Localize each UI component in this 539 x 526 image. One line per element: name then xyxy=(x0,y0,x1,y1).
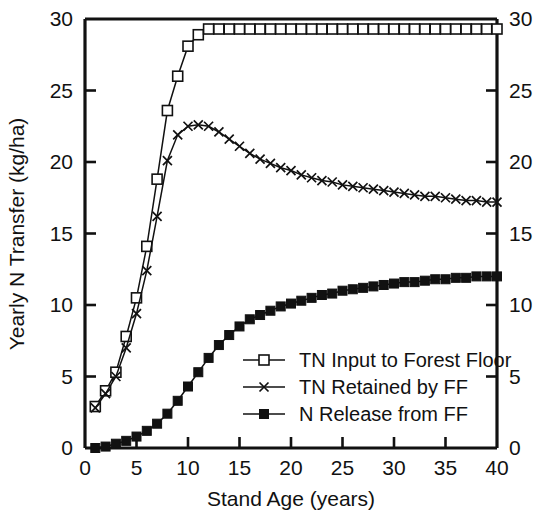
data-point-2-9 xyxy=(184,382,193,391)
data-point-0-28 xyxy=(379,24,389,34)
data-point-2-7 xyxy=(163,409,172,418)
data-point-2-16 xyxy=(256,311,265,320)
legend-marker-filled-square xyxy=(260,410,269,419)
data-point-1-15 xyxy=(245,149,254,158)
data-point-0-6 xyxy=(152,174,162,184)
x-tick-label-15: 15 xyxy=(228,456,251,479)
data-point-2-22 xyxy=(317,290,326,299)
data-point-2-32 xyxy=(420,276,429,285)
data-point-2-26 xyxy=(359,283,368,292)
data-point-0-21 xyxy=(307,24,317,34)
x-tick-label-35: 35 xyxy=(434,456,457,479)
data-point-2-10 xyxy=(194,368,203,377)
data-point-2-20 xyxy=(297,296,306,305)
data-point-2-21 xyxy=(307,293,316,302)
data-point-0-30 xyxy=(399,24,409,34)
data-point-1-13 xyxy=(225,135,234,144)
x-tick-label-20: 20 xyxy=(279,456,302,479)
y-tick-label-right-10: 10 xyxy=(509,293,532,316)
data-point-2-8 xyxy=(173,396,182,405)
data-point-2-0 xyxy=(91,444,100,453)
data-point-2-24 xyxy=(338,286,347,295)
data-point-0-20 xyxy=(296,24,306,34)
legend-label-0: TN Input to Forest Floor xyxy=(299,349,512,371)
data-point-2-39 xyxy=(493,272,502,281)
legend-entry-1: TN Retained by FF xyxy=(243,376,468,398)
data-point-2-35 xyxy=(451,273,460,282)
data-point-0-25 xyxy=(348,24,358,34)
y-tick-label-left-25: 25 xyxy=(50,79,73,102)
data-point-0-8 xyxy=(173,71,183,81)
data-point-0-17 xyxy=(265,24,275,34)
data-point-2-25 xyxy=(348,285,357,294)
data-point-0-12 xyxy=(214,24,224,34)
data-point-0-11 xyxy=(204,24,214,34)
data-point-1-20 xyxy=(297,170,306,179)
x-tick-label-25: 25 xyxy=(331,456,354,479)
data-point-0-31 xyxy=(410,24,420,34)
data-point-2-19 xyxy=(287,299,296,308)
data-point-0-29 xyxy=(389,24,399,34)
data-point-0-27 xyxy=(368,24,378,34)
data-point-1-14 xyxy=(235,142,244,151)
data-point-1-21 xyxy=(307,173,316,182)
chart-figure: 0510152025303540005510101515202025253030… xyxy=(0,0,539,526)
data-point-0-36 xyxy=(461,24,471,34)
data-point-2-1 xyxy=(101,442,110,451)
y-tick-label-left-30: 30 xyxy=(50,7,73,30)
data-point-0-37 xyxy=(471,24,481,34)
y-tick-label-left-5: 5 xyxy=(61,365,73,388)
data-point-0-18 xyxy=(276,24,286,34)
data-point-0-13 xyxy=(224,24,234,34)
y-tick-label-left-15: 15 xyxy=(50,222,73,245)
data-point-0-16 xyxy=(255,24,265,34)
data-point-0-14 xyxy=(235,24,245,34)
data-point-2-33 xyxy=(431,275,440,284)
x-tick-label-40: 40 xyxy=(485,456,508,479)
data-point-1-8 xyxy=(173,130,182,139)
legend-entry-2: N Release from FF xyxy=(243,403,468,425)
data-point-0-35 xyxy=(451,24,461,34)
data-point-0-32 xyxy=(420,24,430,34)
data-point-2-5 xyxy=(142,426,151,435)
data-point-2-14 xyxy=(235,322,244,331)
data-point-0-26 xyxy=(358,24,368,34)
legend-entry-0: TN Input to Forest Floor xyxy=(243,349,512,371)
data-point-0-24 xyxy=(338,24,348,34)
x-axis-title: Stand Age (years) xyxy=(207,487,375,510)
data-point-0-33 xyxy=(430,24,440,34)
data-point-1-16 xyxy=(256,155,265,164)
legend-label-1: TN Retained by FF xyxy=(299,376,468,398)
data-point-0-9 xyxy=(183,41,193,51)
data-point-2-37 xyxy=(472,272,481,281)
data-point-2-15 xyxy=(245,315,254,324)
y-tick-label-right-30: 30 xyxy=(509,7,532,30)
y-tick-label-right-15: 15 xyxy=(509,222,532,245)
y-tick-label-right-20: 20 xyxy=(509,150,532,173)
n-transfer-line-chart: 0510152025303540005510101515202025253030… xyxy=(0,0,539,526)
data-point-2-17 xyxy=(266,306,275,315)
data-point-0-19 xyxy=(286,24,296,34)
x-tick-label-30: 30 xyxy=(382,456,405,479)
data-point-1-18 xyxy=(276,163,285,172)
data-point-2-31 xyxy=(410,278,419,287)
data-point-2-2 xyxy=(111,439,120,448)
data-point-2-13 xyxy=(225,331,234,340)
data-point-2-6 xyxy=(153,419,162,428)
data-point-0-10 xyxy=(193,30,203,40)
data-point-2-27 xyxy=(369,282,378,291)
data-point-2-34 xyxy=(441,275,450,284)
data-point-2-29 xyxy=(390,279,399,288)
data-point-2-38 xyxy=(482,272,491,281)
data-point-2-3 xyxy=(122,436,131,445)
data-point-1-17 xyxy=(266,159,275,168)
data-point-2-4 xyxy=(132,432,141,441)
y-tick-label-right-0: 0 xyxy=(509,436,521,459)
data-point-1-19 xyxy=(287,166,296,175)
data-point-2-30 xyxy=(400,278,409,287)
data-point-2-28 xyxy=(379,280,388,289)
y-axis-title: Yearly N Transfer (kg/ha) xyxy=(5,118,28,351)
x-tick-label-10: 10 xyxy=(176,456,199,479)
data-point-0-15 xyxy=(245,24,255,34)
chart-legend: TN Input to Forest FloorTN Retained by F… xyxy=(243,349,512,425)
